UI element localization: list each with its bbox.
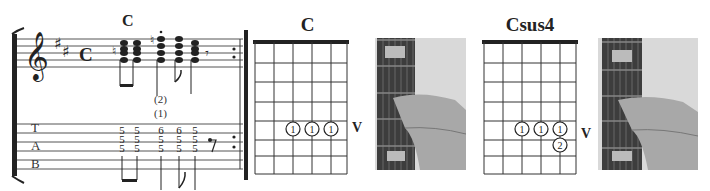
- svg-text:5: 5: [176, 142, 182, 154]
- svg-text:V: V: [581, 126, 591, 141]
- hand-on-fretboard-photo-csus4: [598, 38, 698, 170]
- svg-text:(1): (1): [154, 107, 167, 120]
- svg-text:𝄞: 𝄞: [24, 31, 49, 82]
- svg-text:5: 5: [158, 142, 164, 154]
- svg-text:5: 5: [134, 142, 140, 154]
- fretboard-grid: 1112 V: [480, 0, 595, 191]
- chord-diagram-c: C 111 V: [250, 0, 370, 191]
- hand-on-fretboard-photo-c: [375, 38, 466, 170]
- notation-system: 𝄞 ♯ ♯ C ♮ ♮ 𝄾 C (2): [0, 0, 250, 191]
- svg-text:2: 2: [558, 140, 563, 151]
- svg-text:5: 5: [119, 142, 125, 154]
- svg-text:T: T: [31, 120, 39, 135]
- chord-diagram-csus4: Csus4 1112 V: [480, 0, 595, 191]
- svg-text:1: 1: [520, 124, 525, 135]
- svg-text:1: 1: [539, 124, 544, 135]
- svg-text:1: 1: [291, 124, 296, 135]
- chord-label: C: [122, 12, 134, 29]
- svg-text:(2): (2): [154, 93, 167, 106]
- svg-text:5: 5: [192, 142, 198, 154]
- svg-text:♯: ♯: [62, 42, 70, 61]
- svg-text:A: A: [31, 138, 41, 153]
- svg-text:V: V: [352, 120, 362, 135]
- svg-text:1: 1: [558, 124, 563, 135]
- svg-text:♮: ♮: [112, 44, 116, 58]
- staff-and-tab: 𝄞 ♯ ♯ C ♮ ♮ 𝄾 C (2): [0, 0, 250, 191]
- svg-text:♮: ♮: [150, 33, 154, 47]
- svg-text:♯: ♯: [54, 34, 62, 53]
- svg-text:1: 1: [329, 124, 334, 135]
- svg-text:B: B: [31, 156, 40, 171]
- svg-text:𝄾: 𝄾: [205, 46, 209, 61]
- fretboard-grid: 111 V: [250, 0, 370, 191]
- svg-text:C: C: [79, 44, 93, 65]
- svg-text:1: 1: [310, 124, 315, 135]
